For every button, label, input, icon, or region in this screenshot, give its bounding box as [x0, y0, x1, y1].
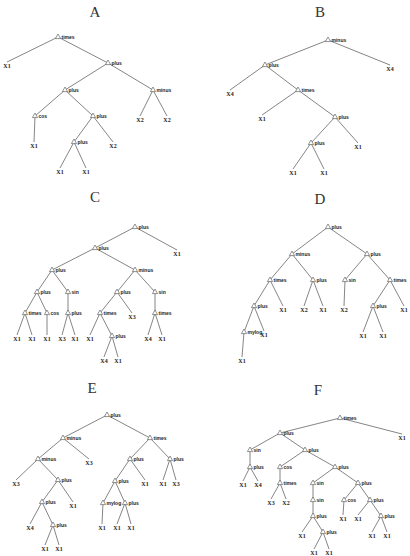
tree-panel-d: DplusminusplustimesplussintimesplusX1X2X… [238, 191, 407, 364]
operator-node: cos [32, 113, 47, 119]
operator-label: cos [348, 497, 357, 503]
triangle-node-icon [132, 224, 137, 229]
leaf-variable-label: X4 [386, 66, 393, 72]
leaf-variable-label: X1 [239, 482, 246, 488]
operator-label: times [284, 480, 297, 486]
tree-edge [93, 116, 113, 142]
triangle-node-icon [100, 500, 105, 505]
tree-edge [38, 459, 58, 480]
operator-node: plus [50, 522, 67, 528]
operator-label: plus [309, 447, 319, 453]
operator-node: plus [332, 464, 349, 470]
tree-edge [358, 500, 370, 515]
leaf-variable-label: X1 [114, 358, 121, 364]
operator-node: cos [44, 310, 59, 316]
leaf-variable-label: X1 [159, 481, 166, 487]
operator-node: plus [55, 477, 72, 483]
tree-edge [367, 254, 390, 280]
operator-node: plus [34, 289, 51, 295]
operator-label: plus [57, 522, 67, 528]
leaf-variable-label: X1 [319, 307, 326, 313]
tree-edge [335, 117, 358, 143]
leaf-variable-label: X1 [113, 525, 120, 531]
tree-edge [52, 270, 68, 292]
tree-edge [58, 480, 73, 502]
triangle-node-icon [241, 329, 246, 334]
operator-label: plus [112, 60, 122, 66]
triangle-node-icon [295, 87, 300, 92]
tree-edge [90, 313, 100, 335]
operator-label: plus [269, 62, 279, 68]
leaf-variable-label: X1 [41, 546, 48, 552]
operator-node: plus [310, 277, 327, 283]
operator-label: plus [332, 224, 342, 230]
leaf-variable-label: X1 [56, 169, 63, 175]
leaf-variable-label: X1 [127, 525, 134, 531]
operator-label: plus [174, 456, 184, 462]
triangle-node-icon [310, 513, 315, 518]
operator-node: plus [71, 139, 88, 145]
operator-label: plus [46, 499, 56, 505]
operator-label: cos [284, 464, 293, 470]
operator-label: plus [119, 478, 129, 484]
tree-edge [265, 65, 298, 90]
triangle-node-icon [325, 37, 330, 42]
tree-edge [314, 532, 323, 549]
tree-edge [170, 459, 176, 480]
operator-label: plus [69, 87, 79, 93]
operator-label: plus [72, 310, 82, 316]
leaf-variable-label: X1 [298, 533, 305, 539]
tree-edge [58, 37, 108, 63]
leaf-variable-label: X1 [310, 550, 317, 556]
tree-edge [125, 503, 131, 524]
tree-edge [60, 142, 74, 168]
panel-title: A [90, 4, 101, 20]
tree-edge [112, 336, 118, 357]
operator-node: cos [277, 464, 292, 470]
leaf-variable-label: X1 [339, 516, 346, 522]
tree-nodes: plusminusplustimesplussintimesplusX1X2X1… [238, 224, 407, 364]
leaf-variable-label: X1 [30, 143, 37, 149]
operator-label: times [159, 310, 172, 316]
operator-node: times [22, 310, 41, 316]
operator-label: plus [111, 412, 121, 418]
operator-node: minus [35, 456, 56, 462]
operator-node: plus [104, 412, 121, 418]
panel-title: E [87, 380, 96, 396]
leaf-variable-label: X1 [354, 144, 361, 150]
tree-edge [65, 90, 93, 116]
leaf-variable-label: X4 [100, 358, 107, 364]
leaf-variable-label: X2 [300, 307, 307, 313]
operator-label: times [394, 277, 407, 283]
tree-edge [63, 438, 89, 459]
tree-edge [344, 280, 345, 306]
operator-node: minus [325, 37, 346, 43]
operator-node: plus [251, 303, 268, 309]
leaf-variable-label: X1 [320, 170, 327, 176]
leaf-variable-label: X1 [13, 336, 20, 342]
operator-label: plus [339, 114, 349, 120]
tree-edge [373, 306, 383, 332]
operator-label: plus [317, 277, 327, 283]
leaf-variable-label: X1 [289, 170, 296, 176]
operator-label: plus [254, 464, 264, 470]
tree-edge [108, 63, 153, 90]
leaf-variable-label: X1 [383, 533, 390, 539]
operator-node: times [295, 87, 314, 93]
operator-label: times [344, 415, 357, 421]
tree-edge [104, 336, 112, 357]
operator-label: minus [332, 37, 347, 43]
triangle-node-icon [289, 251, 294, 256]
tree-edge [292, 254, 313, 280]
operator-label: plus [121, 289, 131, 295]
operator-label: plus [99, 245, 109, 251]
operator-node: plus [247, 464, 264, 470]
tree-edge [117, 503, 125, 524]
tree-edge [140, 90, 153, 116]
operator-node: plus [132, 224, 149, 230]
leaf-variable-label: X4 [26, 525, 33, 531]
leaf-variable-label: X1 [158, 336, 165, 342]
panel-title: D [315, 191, 326, 207]
operator-label: plus [134, 456, 144, 462]
leaf-variable-label: X3 [267, 500, 274, 506]
